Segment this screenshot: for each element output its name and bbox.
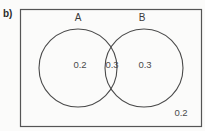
set-a-label: A xyxy=(68,12,88,23)
set-b-label: B xyxy=(132,12,152,23)
outside-sets-value: 0.2 xyxy=(167,107,195,118)
venn-diagram-figure: b) A B 0.2 0.3 0.3 0.2 xyxy=(0,0,205,131)
set-b-only-value: 0.3 xyxy=(131,59,159,70)
intersection-value: 0.3 xyxy=(99,59,125,70)
set-a-only-value: 0.2 xyxy=(66,59,94,70)
